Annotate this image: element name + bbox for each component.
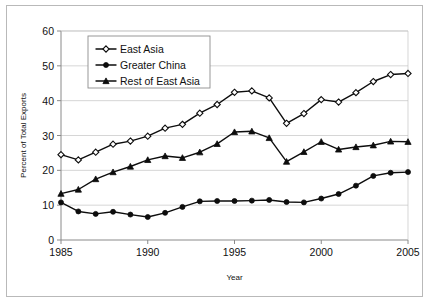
data-point — [336, 192, 341, 197]
data-point — [162, 125, 168, 131]
y-tick-label: 60 — [42, 25, 54, 37]
data-point — [128, 212, 133, 217]
data-point — [249, 198, 254, 203]
data-point — [353, 183, 358, 188]
data-point — [215, 198, 220, 203]
data-point — [388, 71, 394, 77]
data-point — [59, 200, 64, 205]
data-point — [197, 199, 202, 204]
x-axis-title: Year — [226, 273, 243, 282]
data-point — [93, 149, 99, 155]
data-point — [145, 215, 150, 220]
y-tick-label: 0 — [48, 234, 54, 246]
data-point — [406, 170, 411, 175]
y-tick-label: 10 — [42, 199, 54, 211]
data-point — [75, 186, 81, 192]
y-tick-label: 40 — [42, 95, 54, 107]
line-chart: 010203040506019851990199520002005YearPer… — [0, 0, 431, 305]
y-tick-label: 50 — [42, 60, 54, 72]
data-point — [301, 149, 307, 155]
data-point — [318, 139, 324, 145]
legend-label: Rest of East Asia — [120, 75, 200, 87]
legend-marker — [104, 63, 109, 68]
data-point — [301, 200, 306, 205]
data-point — [388, 170, 393, 175]
data-point — [371, 173, 376, 178]
data-point — [163, 210, 168, 215]
data-point — [267, 197, 272, 202]
x-tick-label: 1990 — [136, 246, 160, 258]
legend-label: East Asia — [120, 43, 164, 55]
data-point — [110, 141, 116, 147]
legend-label: Greater China — [120, 59, 186, 71]
data-point — [127, 138, 133, 144]
x-tick-label: 2005 — [396, 246, 420, 258]
data-point — [58, 152, 64, 158]
data-point — [111, 209, 116, 214]
data-point — [232, 198, 237, 203]
data-point — [284, 200, 289, 205]
chart-legend: East AsiaGreater ChinaRest of East Asia — [88, 36, 210, 88]
x-tick-label: 1995 — [223, 246, 247, 258]
x-tick-label: 1985 — [49, 246, 73, 258]
data-point — [76, 209, 81, 214]
data-point — [249, 88, 255, 94]
data-point — [145, 133, 151, 139]
y-tick-label: 30 — [42, 130, 54, 142]
y-axis-title: Percent of Total Exports — [19, 93, 28, 178]
chart-figure: 010203040506019851990199520002005YearPer… — [0, 0, 431, 305]
data-point — [405, 70, 411, 76]
data-point — [319, 196, 324, 201]
data-point — [180, 204, 185, 209]
data-point — [93, 211, 98, 216]
data-point — [336, 99, 342, 105]
y-tick-label: 20 — [42, 164, 54, 176]
data-point — [75, 157, 81, 163]
data-point — [197, 149, 203, 155]
x-tick-label: 2000 — [310, 246, 334, 258]
series-greater-china — [59, 170, 411, 220]
